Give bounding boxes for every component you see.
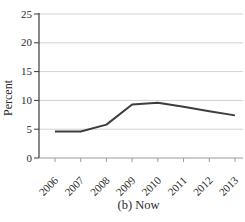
- x-tick-label: 2007: [62, 174, 86, 198]
- y-tick-label: 5: [27, 123, 33, 135]
- x-tick-label: 2012: [191, 174, 215, 198]
- y-tick-label: 0: [27, 152, 33, 164]
- data-series-line: [55, 103, 235, 132]
- x-tick-label: 2009: [114, 174, 138, 198]
- y-tick-label: 20: [21, 36, 33, 48]
- chart-caption: (b) Now: [32, 198, 245, 213]
- x-tick-label: 2006: [36, 174, 60, 198]
- x-tick-label: 2008: [88, 174, 112, 198]
- x-tick-label: 2010: [139, 174, 163, 198]
- line-chart-figure: 0510152025200620072008200920102011201220…: [0, 0, 245, 222]
- x-tick-label: 2013: [216, 174, 240, 198]
- y-tick-label: 15: [21, 65, 33, 77]
- y-tick-label: 10: [21, 94, 33, 106]
- y-axis-title: Percent: [1, 79, 15, 116]
- x-tick-label: 2011: [165, 174, 189, 198]
- y-tick-label: 25: [21, 8, 33, 20]
- line-chart-canvas: 0510152025200620072008200920102011201220…: [0, 0, 245, 198]
